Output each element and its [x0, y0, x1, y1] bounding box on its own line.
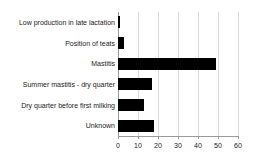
gridline-10 [138, 12, 139, 136]
bar [118, 58, 216, 70]
tick-mark-60 [238, 136, 239, 139]
x-tick-label: 0 [116, 141, 120, 150]
category-label: Mastitis [0, 59, 115, 68]
category-label: Unknown [0, 121, 115, 130]
bar [118, 99, 144, 111]
x-tick-label: 20 [154, 141, 162, 150]
bar [118, 37, 124, 49]
gridline-30 [178, 12, 179, 136]
gridline-0 [118, 12, 119, 136]
x-tick-label: 50 [214, 141, 222, 150]
gridline-20 [158, 12, 159, 136]
bar [118, 120, 154, 132]
x-tick-label: 40 [194, 141, 202, 150]
gridline-50 [218, 12, 219, 136]
bar-chart: Low production in late lactationPosition… [0, 0, 257, 165]
x-tick-label: 30 [174, 141, 182, 150]
category-label: Dry quarter before first milking [0, 101, 115, 110]
gridline-40 [198, 12, 199, 136]
tick-mark-30 [178, 136, 179, 139]
category-label: Low production in late lactation [0, 18, 115, 27]
tick-mark-10 [138, 136, 139, 139]
tick-mark-40 [198, 136, 199, 139]
category-label: Position of teats [0, 39, 115, 48]
bar [118, 16, 120, 28]
gridline-60 [238, 12, 239, 136]
tick-mark-0 [118, 136, 119, 139]
tick-mark-20 [158, 136, 159, 139]
category-label: Summer mastitis - dry quarter [0, 80, 115, 89]
tick-mark-50 [218, 136, 219, 139]
x-tick-label: 10 [134, 141, 142, 150]
plot-area [118, 12, 238, 136]
bar [118, 78, 152, 90]
x-tick-label: 60 [234, 141, 242, 150]
